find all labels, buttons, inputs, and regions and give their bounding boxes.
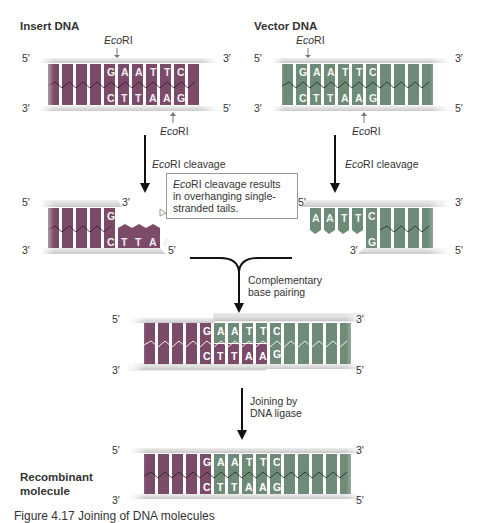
base-letter: A [245, 350, 253, 362]
end-label: 3′ [122, 196, 130, 208]
base-letter: T [260, 325, 266, 337]
base-letter: A [327, 66, 335, 78]
end-label: 5′ [254, 52, 262, 64]
recombinant-title: Recombinant molecule [20, 470, 93, 498]
cleavage-callout: EcoRI cleavage results in overhanging si… [166, 173, 298, 219]
base-letter: C [273, 456, 281, 468]
base-letter: T [217, 350, 223, 362]
end-label: 3′ [112, 364, 120, 376]
base-letter: A [231, 456, 239, 468]
base-letter: T [327, 92, 333, 104]
base-letter: T [313, 92, 319, 104]
base-letter: A [149, 92, 157, 104]
end-label: 5′ [22, 52, 30, 64]
figure-caption: Figure 4.17 Joining of DNA molecules [14, 510, 215, 522]
recombinant-title-line2: molecule [20, 485, 70, 497]
vector-dna-title: Vector DNA [254, 20, 317, 32]
ecori-label-insert-top: EcoRI [104, 34, 133, 46]
step-base-pairing: Complementary base pairing [248, 274, 322, 298]
base-letter: A [341, 92, 349, 104]
base-letter: C [369, 66, 377, 78]
base-letter: C [203, 350, 211, 362]
base-letter: C [203, 481, 211, 493]
base-letter: A [313, 66, 321, 78]
base-letter: T [121, 236, 127, 248]
base-letter: T [135, 236, 141, 248]
end-label: 5′ [356, 364, 364, 376]
base-letter: C [107, 236, 115, 248]
end-label: 5′ [22, 196, 30, 208]
end-label: 5′ [455, 244, 463, 256]
end-label: 5′ [356, 494, 364, 506]
end-label: 3′ [22, 102, 30, 114]
base-letter: G [369, 92, 377, 104]
base-letter: G [203, 325, 211, 337]
end-label: 3′ [254, 102, 262, 114]
base-letter: A [135, 66, 143, 78]
step-cleavage-insert: EcoRI cleavage [152, 158, 226, 170]
base-letter: C [368, 210, 376, 222]
base-letter: G [203, 456, 211, 468]
cleaved-insert-fragment [40, 200, 166, 254]
base-letter: T [341, 212, 347, 224]
base-letter: C [273, 325, 281, 337]
step-cleavage-vector: EcoRI cleavage [345, 158, 419, 170]
base-letter: A [217, 325, 225, 337]
end-label: 3′ [356, 444, 364, 456]
base-letter: T [260, 456, 266, 468]
end-label: 5′ [223, 102, 231, 114]
ecori-label-vector-top: EcoRI [296, 34, 325, 46]
base-letter: T [356, 66, 362, 78]
base-letter: A [355, 92, 363, 104]
ecori-label-insert-bottom: EcoRI [160, 125, 189, 137]
base-letter: T [246, 325, 252, 337]
base-letter: T [135, 92, 141, 104]
base-letter: G [107, 66, 115, 78]
base-letter: A [245, 481, 253, 493]
end-label: 3′ [22, 244, 30, 256]
end-label: 5′ [112, 313, 120, 325]
base-letter: A [259, 481, 267, 493]
base-letter: T [121, 92, 127, 104]
base-letter: A [121, 66, 129, 78]
base-letter: A [259, 350, 267, 362]
base-letter: A [231, 325, 239, 337]
base-letter: T [355, 212, 361, 224]
ecori-label-vector-bottom: EcoRI [352, 125, 381, 137]
base-letter: A [217, 456, 225, 468]
base-letter: G [107, 210, 115, 222]
base-letter: G [368, 236, 376, 248]
step-ligation: Joining by DNA ligase [250, 395, 302, 419]
base-letter: A [163, 236, 171, 248]
base-letter: A [312, 212, 320, 224]
base-letter: G [273, 348, 281, 360]
base-letter: G [177, 92, 185, 104]
base-letter: T [231, 350, 237, 362]
insert-dna-molecule [40, 58, 218, 111]
base-letter: G [299, 66, 307, 78]
base-letter: C [107, 92, 115, 104]
base-letter: T [231, 481, 237, 493]
base-letter: T [342, 66, 348, 78]
end-label: 5′ [298, 196, 306, 208]
insert-dna-title: Insert DNA [20, 20, 79, 32]
base-letter: T [217, 481, 223, 493]
end-label: 3′ [112, 494, 120, 506]
base-letter: A [326, 212, 334, 224]
end-label: 3′ [356, 313, 364, 325]
base-letter: T [164, 66, 170, 78]
end-label: 3′ [455, 196, 463, 208]
base-letter: C [177, 66, 185, 78]
base-letter: G [273, 481, 281, 493]
end-label: 5′ [112, 444, 120, 456]
end-label: 5′ [455, 102, 463, 114]
base-letter: A [149, 236, 157, 248]
base-letter: T [246, 456, 252, 468]
end-label: 3′ [350, 244, 358, 256]
base-letter: A [163, 92, 171, 104]
end-label: 3′ [223, 52, 231, 64]
recombinant-title-line1: Recombinant [20, 471, 93, 483]
base-letter: T [150, 66, 156, 78]
base-letter: C [299, 92, 307, 104]
